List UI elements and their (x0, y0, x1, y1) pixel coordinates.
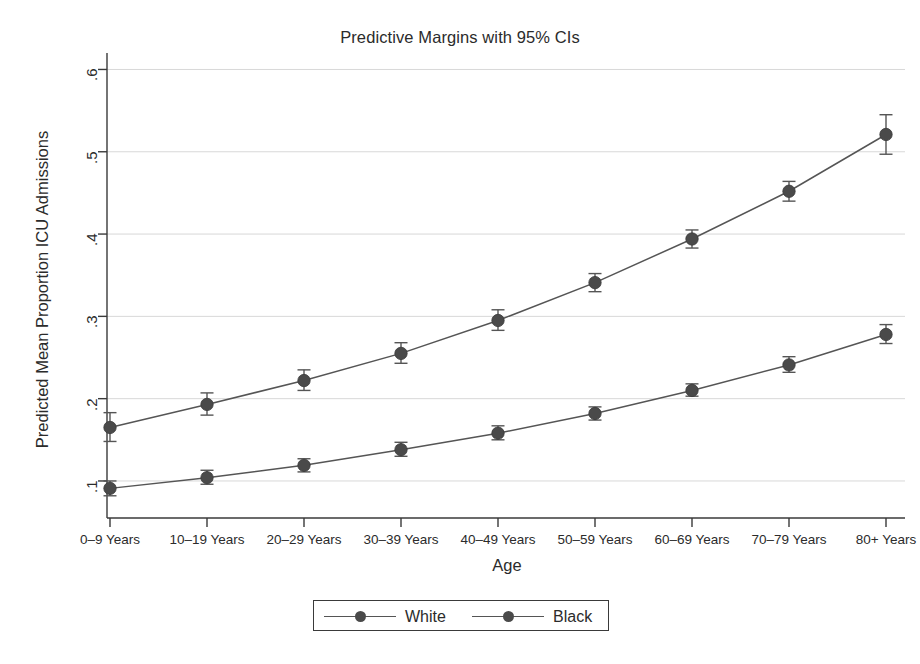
data-point[interactable] (298, 459, 310, 471)
legend-item-white[interactable]: White (324, 601, 446, 632)
chart-legend: White Black (313, 600, 609, 631)
y-tick-label: .1 (83, 480, 100, 520)
series-line-white (110, 134, 886, 427)
data-point[interactable] (298, 374, 310, 386)
data-point[interactable] (589, 276, 601, 288)
chart-figure: Predictive Margins with 95% CIs Predicte… (0, 0, 920, 664)
data-point[interactable] (492, 314, 504, 326)
y-tick-label: .4 (83, 234, 100, 274)
data-point[interactable] (783, 185, 795, 197)
x-tick-label: 40–49 Years (460, 532, 535, 547)
x-tick-label: 60–69 Years (654, 532, 729, 547)
y-tick-label: .2 (83, 398, 100, 438)
x-tick-label: 10–19 Years (169, 532, 244, 547)
data-point[interactable] (783, 359, 795, 371)
legend-label: White (405, 608, 446, 626)
x-tick-label: 70–79 Years (751, 532, 826, 547)
data-point[interactable] (201, 398, 213, 410)
x-tick-label: 50–59 Years (557, 532, 632, 547)
y-tick-label: .3 (83, 316, 100, 356)
data-point[interactable] (395, 347, 407, 359)
legend-marker-icon (472, 607, 544, 627)
data-point[interactable] (395, 443, 407, 455)
legend-item-black[interactable]: Black (472, 601, 592, 632)
x-tick-label: 80+ Years (856, 532, 916, 547)
legend-label: Black (553, 608, 592, 626)
x-tick-label: 0–9 Years (80, 532, 140, 547)
data-point[interactable] (686, 384, 698, 396)
series-line-black (110, 334, 886, 488)
x-tick-label: 20–29 Years (266, 532, 341, 547)
data-point[interactable] (589, 407, 601, 419)
data-point[interactable] (201, 471, 213, 483)
data-point[interactable] (492, 427, 504, 439)
legend-marker-icon (324, 607, 396, 627)
x-tick-label: 30–39 Years (363, 532, 438, 547)
y-tick-label: .5 (83, 151, 100, 191)
data-point[interactable] (104, 421, 116, 433)
data-point[interactable] (104, 482, 116, 494)
data-point[interactable] (880, 328, 892, 340)
plot-area (0, 0, 920, 664)
y-tick-label: .6 (83, 69, 100, 109)
data-point[interactable] (686, 233, 698, 245)
data-point[interactable] (880, 128, 892, 140)
